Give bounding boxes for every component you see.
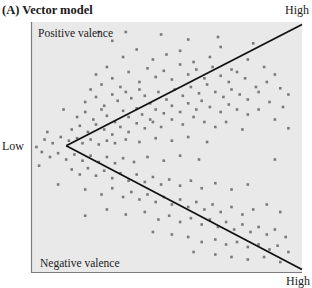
data-point: [266, 203, 269, 206]
data-point: [95, 123, 98, 126]
data-point: [81, 159, 84, 162]
data-point: [60, 136, 63, 139]
data-point: [228, 103, 231, 106]
data-point: [125, 213, 128, 216]
data-point: [268, 101, 271, 104]
high-label-top: High: [285, 3, 309, 17]
data-point: [144, 127, 147, 130]
data-point: [211, 203, 214, 206]
data-point: [146, 193, 149, 196]
data-point: [198, 158, 201, 161]
data-point: [103, 105, 106, 108]
data-point: [179, 221, 182, 224]
data-point: [154, 76, 157, 79]
data-point: [35, 146, 38, 149]
data-point: [119, 86, 122, 89]
data-point: [122, 196, 125, 199]
data-point: [257, 108, 260, 111]
data-point: [122, 56, 125, 59]
data-point: [106, 208, 109, 211]
data-point: [138, 81, 141, 84]
data-point: [152, 121, 155, 124]
data-point: [247, 183, 250, 186]
data-point: [230, 256, 233, 259]
data-point: [68, 139, 71, 142]
data-point: [187, 38, 190, 41]
data-point: [152, 176, 155, 179]
data-point: [219, 75, 222, 78]
data-point: [130, 191, 133, 194]
data-point: [98, 143, 101, 146]
data-point: [233, 228, 236, 231]
data-point: [49, 156, 52, 159]
data-point: [179, 63, 182, 66]
data-point: [225, 121, 228, 124]
data-point: [41, 151, 44, 154]
data-point: [279, 87, 282, 90]
data-point: [192, 116, 195, 119]
data-point: [133, 161, 136, 164]
data-point: [95, 174, 98, 177]
data-point: [192, 251, 195, 254]
data-point: [89, 138, 92, 141]
data-point: [43, 138, 46, 141]
positive-valence-label: Positive valence: [38, 27, 113, 39]
data-point: [195, 201, 198, 204]
data-point: [236, 241, 239, 244]
data-point: [51, 142, 54, 145]
data-point: [214, 253, 217, 256]
data-point: [79, 173, 82, 176]
data-point: [247, 113, 250, 116]
data-point: [114, 162, 117, 165]
data-point: [287, 127, 290, 130]
data-point: [179, 184, 182, 187]
data-point: [179, 111, 182, 114]
data-point: [214, 238, 217, 241]
data-point: [168, 214, 171, 217]
data-point: [217, 36, 220, 39]
data-point: [127, 131, 130, 134]
data-point: [192, 61, 195, 64]
data-point: [200, 187, 203, 190]
data-point: [157, 91, 160, 94]
data-point: [73, 153, 76, 156]
data-point: [247, 98, 250, 101]
data-point: [171, 139, 174, 142]
data-point: [287, 251, 290, 254]
data-point: [111, 187, 114, 190]
data-point: [144, 181, 147, 184]
data-point: [171, 118, 174, 121]
data-point: [206, 83, 209, 86]
data-point: [65, 158, 68, 161]
data-point: [274, 228, 277, 231]
data-point: [247, 58, 250, 61]
data-point: [163, 70, 166, 73]
data-point: [165, 98, 168, 101]
data-point: [263, 66, 266, 69]
data-point: [214, 126, 217, 129]
data-point: [284, 236, 287, 239]
data-point: [100, 83, 103, 86]
data-point: [244, 77, 247, 80]
data-point: [266, 81, 269, 84]
data-point: [106, 156, 109, 159]
data-point: [187, 102, 190, 105]
data-point: [125, 91, 128, 94]
data-point: [206, 141, 209, 144]
data-point: [200, 241, 203, 244]
data-point: [219, 111, 222, 114]
data-point: [138, 141, 141, 144]
data-point: [274, 73, 277, 76]
data-point: [230, 188, 233, 191]
data-point: [87, 167, 90, 170]
data-point: [111, 133, 114, 136]
data-point: [111, 177, 114, 180]
data-point: [163, 159, 166, 162]
data-point: [87, 131, 90, 134]
data-point: [171, 105, 174, 108]
data-point: [225, 243, 228, 246]
data-point: [163, 112, 166, 115]
data-point: [89, 154, 92, 157]
data-point: [57, 183, 60, 186]
data-point: [152, 58, 155, 61]
